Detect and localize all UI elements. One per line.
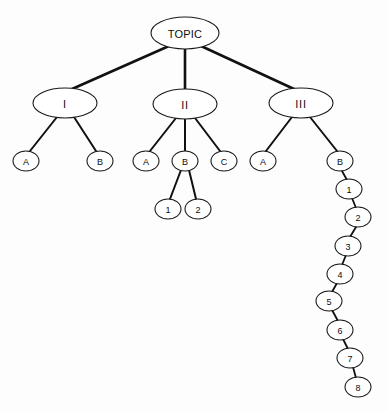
tree-node-iii[interactable]: III [269, 88, 333, 118]
node-shape-c2 [345, 207, 371, 227]
node-shape-i [33, 88, 97, 118]
node-shape-iii-b [327, 151, 353, 171]
tree-edge-ii-b-to-ii-b-1 [170, 170, 181, 199]
tree-node-ii-b-2[interactable]: 2 [185, 199, 211, 219]
tree-node-topic[interactable]: TOPIC [151, 17, 219, 49]
node-shape-ii [153, 89, 217, 119]
tree-edge-ii-to-ii-a [150, 118, 176, 151]
node-shape-ii-b [172, 151, 198, 171]
tree-node-c7[interactable]: 7 [337, 348, 363, 368]
tree-node-iii-b[interactable]: B [327, 151, 353, 171]
node-shape-c6 [327, 320, 353, 340]
tree-node-ii-a[interactable]: A [133, 151, 159, 171]
tree-node-ii-c[interactable]: C [211, 151, 237, 171]
node-shape-c1 [336, 179, 362, 199]
tree-node-c4[interactable]: 4 [327, 264, 353, 284]
tree-node-ii[interactable]: II [153, 89, 217, 119]
tree-node-c5[interactable]: 5 [316, 291, 342, 311]
node-shape-ii-b-2 [185, 199, 211, 219]
tree-edge-c3-to-c4 [342, 255, 346, 265]
tree-node-i-b[interactable]: B [87, 151, 113, 171]
tree-node-c2[interactable]: 2 [345, 207, 371, 227]
tree-diagram-svg: TOPICIIIIIIABABC12AB12345678 [0, 0, 388, 411]
tree-edge-c2-to-c3 [350, 227, 356, 237]
node-shape-i-a [13, 151, 39, 171]
tree-node-c8[interactable]: 8 [345, 377, 371, 397]
tree-edge-c5-to-c6 [332, 310, 338, 321]
node-shape-ii-a [133, 151, 159, 171]
node-shape-ii-c [211, 151, 237, 171]
tree-node-i-a[interactable]: A [13, 151, 39, 171]
node-shape-ii-b-1 [155, 199, 181, 219]
tree-edge-c1-to-c2 [352, 198, 356, 208]
node-shape-c5 [316, 291, 342, 311]
tree-edge-c7-to-c8 [353, 367, 356, 378]
tree-node-c1[interactable]: 1 [336, 179, 362, 199]
node-shape-iii [269, 88, 333, 118]
tree-edge-topic-to-i [72, 46, 169, 89]
tree-edge-topic-to-iii [201, 46, 294, 89]
node-shape-iii-a [250, 151, 276, 171]
tree-edge-i-to-i-a [30, 117, 57, 151]
node-shape-c7 [337, 348, 363, 368]
node-shape-topic [151, 17, 219, 49]
tree-edge-iii-to-iii-a [266, 117, 292, 151]
tree-node-ii-b[interactable]: B [172, 151, 198, 171]
tree-node-ii-b-1[interactable]: 1 [155, 199, 181, 219]
tree-edge-ii-b-to-ii-b-2 [189, 170, 196, 199]
node-shape-c4 [327, 264, 353, 284]
nodes-layer: TOPICIIIIIIABABC12AB12345678 [13, 17, 371, 397]
node-shape-i-b [87, 151, 113, 171]
tree-node-iii-a[interactable]: A [250, 151, 276, 171]
tree-diagram-canvas: TOPICIIIIIIABABC12AB12345678 [0, 0, 388, 411]
tree-edge-i-to-i-b [74, 117, 96, 151]
node-shape-c8 [345, 377, 371, 397]
tree-edge-c4-to-c5 [332, 283, 337, 292]
tree-edge-iii-to-iii-b [310, 117, 337, 151]
tree-node-c6[interactable]: 6 [327, 320, 353, 340]
tree-node-c3[interactable]: 3 [335, 236, 361, 256]
tree-edge-c6-to-c7 [343, 339, 348, 349]
node-shape-c3 [335, 236, 361, 256]
tree-edge-ii-to-ii-c [195, 118, 220, 151]
tree-node-i[interactable]: I [33, 88, 97, 118]
